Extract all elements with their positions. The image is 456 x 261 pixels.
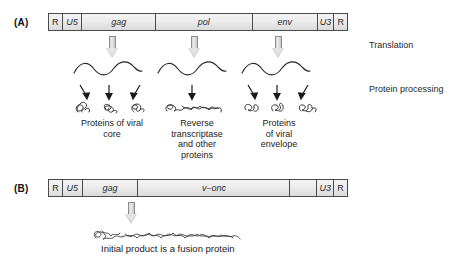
- cleavage-arrows-env: [244, 84, 316, 101]
- genome-bar-panel-b: R U5 gag v–onc U3 R: [48, 179, 348, 197]
- cleavage-arrows-gag: [76, 84, 148, 101]
- polyprotein-wave-env: [240, 60, 312, 78]
- genome-segment-r-right-a: R: [334, 14, 347, 30]
- genome-segment-r-right-b: R: [334, 180, 347, 196]
- genome-segment-env-a: env: [253, 14, 318, 30]
- protein-products-pol: [164, 100, 224, 116]
- translation-arrow-env: [272, 36, 285, 58]
- product-caption-core: Proteins of viral core: [62, 118, 162, 139]
- translation-arrow-gag: [106, 36, 119, 58]
- genome-segment-u3-a: U3: [318, 14, 335, 30]
- panel-a-label: (A): [14, 17, 28, 28]
- product-caption-envelope: Proteins of viral envelope: [240, 118, 318, 150]
- fusion-protein-squiggle: [92, 228, 242, 242]
- genome-segment-u5-b: U5: [63, 180, 83, 196]
- polyprotein-wave-pol: [156, 60, 228, 78]
- genome-segment-u5-a: U5: [63, 14, 83, 30]
- protein-products-gag: [72, 100, 152, 116]
- genome-segment-pol-a: pol: [156, 14, 252, 30]
- product-caption-rt: Reverse transcriptase and other proteins: [158, 118, 236, 160]
- genome-segment-unlabeled-b: [290, 180, 317, 196]
- step-label-translation: Translation: [369, 40, 413, 50]
- genome-segment-r-left-a: R: [49, 14, 63, 30]
- protein-products-env: [242, 100, 322, 116]
- polyprotein-wave-gag: [72, 60, 144, 78]
- translation-arrow-fusion: [125, 202, 138, 224]
- figure-canvas: (A) R U5 gag pol env U3 R Translation Pr…: [0, 0, 456, 261]
- genome-segment-r-left-b: R: [49, 180, 63, 196]
- cleavage-arrows-pol: [176, 84, 208, 101]
- genome-segment-u3-b: U3: [317, 180, 334, 196]
- genome-segment-vonc-b: v–onc: [138, 180, 290, 196]
- genome-segment-gag-b: gag: [83, 180, 139, 196]
- panel-b-label: (B): [14, 183, 28, 194]
- genome-segment-gag-a: gag: [82, 14, 156, 30]
- fusion-protein-caption: Initial product is a fusion protein: [101, 243, 235, 254]
- translation-arrow-pol: [188, 36, 201, 58]
- genome-bar-panel-a: R U5 gag pol env U3 R: [48, 13, 348, 31]
- step-label-protein-processing: Protein processing: [369, 84, 444, 94]
